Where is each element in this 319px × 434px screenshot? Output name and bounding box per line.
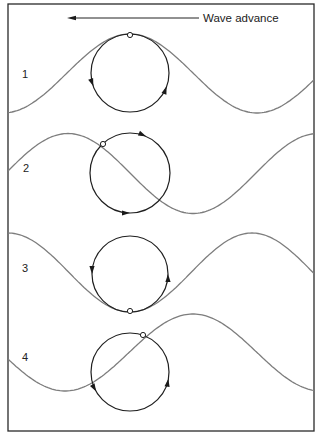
- wave-profile: [8, 233, 314, 312]
- panel-label-4: 4: [22, 351, 28, 363]
- panel-label-1: 1: [22, 68, 28, 80]
- panel-4: [8, 314, 314, 411]
- water-particle-marker: [140, 332, 145, 337]
- orbit-direction-arrow-icon: [88, 78, 93, 86]
- orbit-direction-arrow-icon: [165, 379, 170, 387]
- panel-label-2: 2: [23, 162, 29, 174]
- orbit-direction-arrow-icon: [165, 274, 170, 282]
- orbit-direction-arrow-icon: [122, 210, 130, 215]
- panel-1: [8, 32, 314, 113]
- orbit-direction-arrow-icon: [138, 131, 146, 137]
- panel-label-3: 3: [22, 262, 28, 274]
- arrow-left-icon: [67, 16, 76, 20]
- water-particle-marker: [127, 32, 132, 37]
- water-particle-marker: [127, 308, 132, 313]
- orbit-direction-arrow-icon: [89, 266, 94, 274]
- orbit-circle: [92, 236, 168, 312]
- wave-profile: [8, 34, 314, 113]
- wave-profile: [8, 134, 314, 214]
- wave-orbit-diagram: Wave advance 1234: [0, 0, 319, 434]
- water-particle-marker: [100, 141, 105, 146]
- wave-advance-label: Wave advance: [203, 12, 279, 24]
- panels: [8, 32, 314, 411]
- panel-3: [8, 233, 314, 314]
- panel-labels: 1234: [22, 68, 29, 363]
- orbit-direction-arrow-icon: [90, 383, 96, 391]
- panel-2: [8, 131, 314, 216]
- orbit-circle: [91, 34, 169, 112]
- orbit-circle: [91, 333, 169, 411]
- orbit-direction-arrow-icon: [162, 86, 167, 94]
- wave-profile: [8, 314, 314, 391]
- wave-advance-indicator: Wave advance: [67, 12, 279, 24]
- figure-frame: [8, 4, 314, 431]
